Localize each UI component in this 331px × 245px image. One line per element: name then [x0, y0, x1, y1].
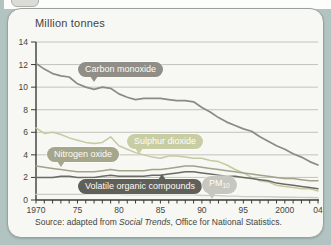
- sulphur-dioxide-label-pointer: [135, 148, 143, 154]
- x-tick-label-2004: 04: [313, 205, 323, 215]
- x-tick-label-1990: 90: [197, 205, 207, 215]
- x-tick-label-1985: 85: [156, 205, 166, 215]
- volatile-organic-compounds-label-pointer: [158, 174, 166, 180]
- nitrogen-oxide-label: Nitrogen oxide: [47, 147, 119, 162]
- x-tick-label-1980: 80: [114, 205, 124, 215]
- carbon-monoxide-label-pointer: [90, 76, 98, 82]
- page-background: Million tonnes 0246810121419707580859095…: [0, 0, 331, 245]
- source-text: Source: adapted from Social Trends, Offi…: [35, 217, 315, 227]
- pm10-label: PM10: [202, 176, 237, 194]
- volatile-organic-compounds-label-text: Volatile organic compounds: [85, 181, 195, 191]
- y-tick-label-8: 8: [23, 105, 28, 115]
- sulphur-dioxide-label: Sulphur dioxide: [127, 134, 203, 149]
- carbon-monoxide-label-text: Carbon monoxide: [85, 64, 156, 74]
- emissions-line-chart: 0246810121419707580859095200004: [0, 0, 331, 245]
- nitrogen-oxide-label-pointer: [57, 161, 65, 167]
- carbon-monoxide-label: Carbon monoxide: [78, 62, 163, 77]
- x-tick-label-1970: 1970: [27, 205, 46, 215]
- y-tick-label-14: 14: [19, 37, 29, 47]
- source-publication: Social Trends: [119, 217, 170, 227]
- x-tick-label-1995: 95: [239, 205, 249, 215]
- nitrogen-oxide-label-text: Nitrogen oxide: [54, 149, 112, 159]
- y-tick-label-4: 4: [23, 150, 28, 160]
- series-line-pm10: [36, 194, 318, 197]
- y-tick-label-2: 2: [23, 172, 28, 182]
- y-tick-label-10: 10: [19, 82, 29, 92]
- x-tick-label-1975: 75: [73, 205, 83, 215]
- source-suffix: , Office for National Statistics.: [170, 217, 281, 227]
- x-tick-label-2000: 2000: [275, 205, 294, 215]
- pm10-label-text-sub: 10: [223, 182, 230, 189]
- pm10-label-text-main: PM: [209, 178, 223, 188]
- y-tick-label-6: 6: [23, 127, 28, 137]
- sulphur-dioxide-label-text: Sulphur dioxide: [134, 136, 196, 146]
- y-tick-label-12: 12: [19, 60, 29, 70]
- volatile-organic-compounds-label: Volatile organic compounds: [78, 179, 202, 194]
- source-prefix: Source: adapted from: [35, 217, 119, 227]
- y-tick-label-0: 0: [23, 195, 28, 205]
- pm10-label-pointer: [208, 193, 216, 199]
